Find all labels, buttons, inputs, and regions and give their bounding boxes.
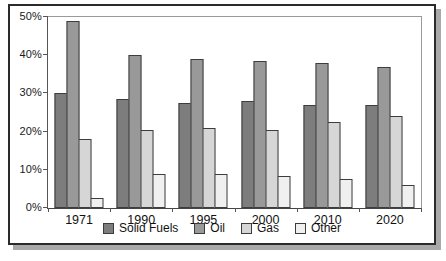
plot-area: 0%10%20%30%40%50%19711990199520002010202…: [47, 16, 422, 209]
legend-swatch: [241, 223, 252, 234]
y-tick-label: 30%: [8, 87, 42, 98]
bar-other: [339, 179, 352, 208]
bar-group-2020: 2020: [359, 17, 421, 208]
y-tick-label: 40%: [8, 49, 42, 60]
chart-image: 0%10%20%30%40%50%19711990199520002010202…: [0, 0, 446, 261]
bars-row: [303, 63, 352, 208]
legend-label: Gas: [257, 222, 279, 234]
bar-other: [401, 185, 414, 208]
x-tick-mark: [172, 208, 173, 212]
legend-label: Other: [311, 222, 341, 234]
x-tick-mark: [235, 208, 236, 212]
bar-group-1971: 1971: [48, 17, 110, 208]
legend-item-other: Other: [295, 222, 341, 234]
bar-group-2000: 2000: [235, 17, 297, 208]
legend: Solid FuelsOilGasOther: [10, 220, 434, 236]
bar-other: [277, 176, 290, 208]
x-tick-mark: [359, 208, 360, 212]
legend-swatch: [194, 223, 205, 234]
bar-other: [215, 174, 228, 208]
y-tick-label: 20%: [8, 126, 42, 137]
y-tick-label: 50%: [8, 11, 42, 22]
bars-row: [55, 21, 104, 208]
legend-swatch: [103, 223, 114, 234]
legend-item-solid-fuels: Solid Fuels: [103, 222, 178, 234]
bar-other: [91, 198, 104, 208]
y-tick-label: 10%: [8, 164, 42, 175]
legend-label: Oil: [210, 222, 225, 234]
x-tick-mark: [110, 208, 111, 212]
legend-item-oil: Oil: [194, 222, 225, 234]
bar-group-2010: 2010: [297, 17, 359, 208]
bars-row: [179, 59, 228, 208]
bar-group-1990: 1990: [110, 17, 172, 208]
legend-label: Solid Fuels: [119, 222, 178, 234]
x-tick-mark: [48, 208, 49, 212]
y-tick-label: 0%: [8, 202, 42, 213]
chart-frame: 0%10%20%30%40%50%19711990199520002010202…: [8, 4, 436, 245]
bar-other: [153, 174, 166, 208]
legend-item-gas: Gas: [241, 222, 279, 234]
bars-row: [117, 55, 166, 208]
x-tick-mark: [297, 208, 298, 212]
bars-row: [365, 67, 414, 208]
bars-row: [241, 61, 290, 208]
x-tick-mark: [421, 208, 422, 212]
bar-group-1995: 1995: [172, 17, 234, 208]
legend-swatch: [295, 223, 306, 234]
